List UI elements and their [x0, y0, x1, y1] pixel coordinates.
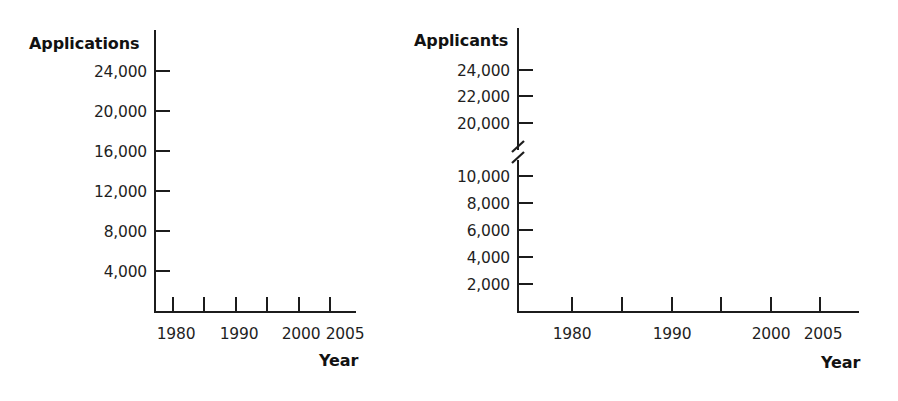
y-tick-label-left-5: 24,000 — [94, 63, 147, 81]
chart-panel-applicants: Applicants 2,000 4,000 — [400, 0, 898, 401]
y-tick-label-left-3: 16,000 — [94, 143, 147, 161]
x-tick-label-right-1990: 1990 — [653, 325, 692, 343]
x-axis-title-left: Year — [318, 351, 358, 370]
x-tick-label-left-2000: 2000 — [282, 325, 321, 343]
x-tick-label-left-1980: 1980 — [157, 325, 196, 343]
y-tick-label-left-1: 8,000 — [104, 223, 147, 241]
y-tick-label-left-2: 12,000 — [94, 183, 147, 201]
y-tick-label-right-7: 24,000 — [457, 62, 510, 80]
chart-panel-applications: Applications 4,000 8,000 12,000 16,000 2… — [0, 0, 400, 401]
x-axis-title-right: Year — [820, 353, 860, 372]
y-tick-label-left-0: 4,000 — [104, 263, 147, 281]
two-panel-figure: Applications 4,000 8,000 12,000 16,000 2… — [0, 0, 898, 401]
y-tick-label-right-5: 20,000 — [457, 115, 510, 133]
y-tick-label-left-4: 20,000 — [94, 103, 147, 121]
x-tick-label-left-2005: 2005 — [326, 325, 365, 343]
y-tick-label-right-4: 10,000 — [457, 168, 510, 186]
x-tick-label-left-1990: 1990 — [220, 325, 259, 343]
y-tick-label-right-3: 8,000 — [467, 195, 510, 213]
y-tick-label-right-6: 22,000 — [457, 88, 510, 106]
y-tick-label-right-2: 6,000 — [467, 222, 510, 240]
y-axis-title-left: Applications — [29, 34, 139, 53]
y-axis-title-right: Applicants — [414, 31, 508, 50]
x-tick-label-right-1980: 1980 — [553, 325, 592, 343]
y-tick-label-right-0: 2,000 — [467, 276, 510, 294]
x-tick-label-right-2005: 2005 — [804, 325, 843, 343]
y-tick-label-right-1: 4,000 — [467, 249, 510, 267]
x-tick-label-right-2000: 2000 — [752, 325, 791, 343]
